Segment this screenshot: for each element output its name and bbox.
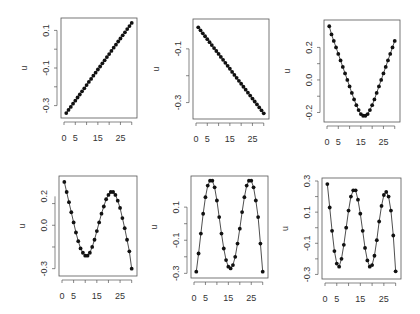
data-point — [391, 46, 395, 50]
data-point — [224, 258, 228, 262]
data-point — [67, 200, 71, 204]
x-tick-label: 15 — [225, 134, 235, 144]
x-tick-label: 25 — [379, 294, 389, 304]
data-point — [217, 215, 221, 219]
y-tick-label: 0.1 — [171, 201, 181, 214]
y-axis-label: u — [282, 68, 292, 73]
y-tick-label: -0.3 — [302, 267, 312, 283]
data-point — [130, 267, 134, 271]
data-point — [348, 85, 352, 89]
data-point — [361, 229, 365, 233]
data-point — [199, 232, 203, 236]
data-point — [377, 85, 381, 89]
y-tick-label: -0.1 — [171, 232, 181, 248]
data-point — [339, 59, 343, 63]
data-point — [104, 197, 108, 201]
data-point — [206, 184, 210, 188]
data-point — [96, 68, 100, 72]
series-line — [329, 26, 394, 115]
x-tick-label: 5 — [73, 133, 78, 143]
data-point — [384, 65, 388, 69]
data-point — [67, 108, 71, 112]
data-point — [91, 74, 95, 78]
plot-panel-5: 051525-0.3-0.10.1u — [149, 176, 268, 303]
data-point — [123, 30, 127, 34]
x-tick-label: 0 — [191, 293, 196, 303]
x-tick-label: 15 — [223, 293, 233, 303]
plot-panel-1: 051525-0.3-0.10.1u — [19, 18, 137, 143]
x-tick-label: 0 — [61, 133, 66, 143]
data-point — [333, 249, 337, 253]
data-point — [352, 98, 356, 102]
y-tick-label: -0.3 — [39, 261, 49, 277]
data-point — [238, 227, 242, 231]
data-point — [249, 179, 253, 183]
data-point — [357, 108, 361, 112]
y-tick-label: -0.3 — [171, 266, 181, 282]
y-axis-label: u — [17, 223, 27, 228]
data-point — [259, 242, 263, 246]
data-point — [95, 229, 99, 233]
data-point — [90, 245, 94, 249]
data-point — [394, 269, 398, 273]
data-point — [62, 180, 66, 184]
data-point — [100, 61, 104, 65]
y-axis-label: u — [149, 224, 159, 229]
data-point — [373, 98, 377, 102]
data-point — [127, 249, 131, 253]
data-point — [210, 179, 214, 183]
data-point — [116, 40, 120, 44]
data-point — [114, 43, 118, 47]
data-point — [368, 108, 372, 112]
data-point — [80, 89, 84, 93]
data-point — [93, 238, 97, 242]
data-point — [240, 210, 244, 214]
data-point — [197, 252, 201, 256]
data-point — [89, 77, 93, 81]
data-point — [102, 205, 106, 209]
series-line — [327, 184, 395, 271]
data-point — [114, 193, 118, 197]
x-tick-label: 25 — [115, 133, 125, 143]
data-point — [388, 52, 392, 56]
x-tick-label: 5 — [336, 137, 341, 147]
data-point — [375, 91, 379, 95]
data-point — [363, 246, 367, 250]
data-point — [342, 243, 346, 247]
plot-panel-3: 051525-0.20.00.2u — [282, 20, 400, 147]
data-point — [254, 199, 258, 203]
data-point — [72, 220, 76, 224]
data-point — [375, 238, 379, 242]
data-point — [256, 215, 260, 219]
data-point — [354, 103, 358, 107]
x-tick-label: 5 — [205, 134, 210, 144]
data-point — [213, 185, 217, 189]
data-point — [387, 195, 391, 199]
data-point — [88, 251, 92, 255]
data-point — [222, 247, 226, 251]
y-tick-label: -0.3 — [41, 98, 51, 114]
data-point — [335, 262, 339, 266]
plot-panel-4: 051525-0.30.00.2u — [17, 176, 137, 301]
x-tick-label: 0 — [322, 294, 327, 304]
data-point — [79, 247, 83, 251]
data-point — [78, 93, 82, 97]
data-point — [116, 199, 120, 203]
series-line — [196, 181, 262, 272]
x-tick-label: 25 — [246, 293, 256, 303]
y-tick-label: -0.1 — [41, 60, 51, 76]
data-point — [69, 105, 73, 109]
data-point — [87, 80, 91, 84]
data-point — [379, 78, 383, 82]
data-point — [365, 259, 369, 263]
data-point — [245, 184, 249, 188]
data-point — [233, 255, 237, 259]
data-point — [128, 24, 132, 28]
y-tick-label: 0.0 — [304, 74, 314, 87]
plot-frame — [324, 20, 400, 122]
data-point — [356, 198, 360, 202]
data-point — [103, 58, 107, 62]
data-point — [201, 212, 205, 216]
data-point — [330, 229, 334, 233]
data-point — [64, 111, 68, 115]
